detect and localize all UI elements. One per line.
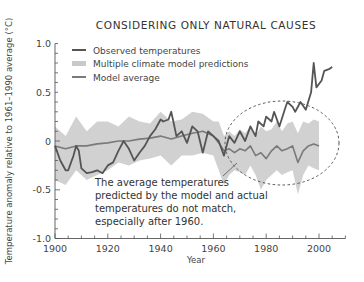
legend-band-label: Multiple climate model predictions <box>93 59 249 69</box>
x-tick-label: 1940 <box>149 243 173 254</box>
x-tick-label: 1920 <box>96 243 120 254</box>
y-tick-label: 0 <box>45 136 51 147</box>
y-axis: 1.00.50-0.5-1.0 <box>32 38 60 244</box>
legend: Observed temperatures Multiple climate m… <box>72 46 249 83</box>
x-tick-label: 2000 <box>307 243 331 254</box>
x-tick-label: 1900 <box>43 243 67 254</box>
x-tick-label: 1960 <box>201 243 225 254</box>
y-tick-label: 0.5 <box>36 87 51 98</box>
chart-title: CONSIDERING ONLY NATURAL CAUSES <box>96 19 316 31</box>
annotation-line-1: The average temperatures <box>94 177 229 188</box>
y-axis-label: Temperature anomaly relative to 1961–199… <box>4 18 14 265</box>
legend-band-swatch <box>72 61 86 66</box>
x-axis: 190019201940196019802000 <box>43 234 345 254</box>
annotation-line-2: predicted by the model and actual <box>95 190 268 201</box>
x-tick-label: 1980 <box>254 243 278 254</box>
legend-model-label: Model average <box>93 73 160 83</box>
y-tick-label: 1.0 <box>36 38 51 49</box>
legend-observed-label: Observed temperatures <box>93 46 201 56</box>
y-tick-label: -0.5 <box>32 184 51 195</box>
x-axis-label: Year <box>186 255 206 265</box>
annotation-line-3: temperatures do not match, <box>95 203 236 214</box>
temperature-anomaly-chart: CONSIDERING ONLY NATURAL CAUSES 1.00.50-… <box>0 0 364 282</box>
annotation-line-4: especially after 1960. <box>95 216 203 227</box>
